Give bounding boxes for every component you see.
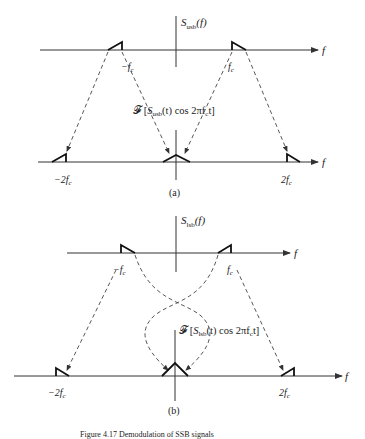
triangle-neg-2fc-b <box>56 368 69 376</box>
label-neg-fc-b: −fc <box>113 264 127 277</box>
axis-label-f-bottom: f <box>322 156 327 168</box>
label-pos-2fc-b: 2fc <box>279 387 291 400</box>
triangle-neg-2fc-a <box>52 154 66 162</box>
axis-label-f-bottom-b: f <box>345 370 350 382</box>
transform-label-lsb: 𝓕 [Slsb(t) cos 2πfct] <box>179 325 259 338</box>
lsb-triangle-pos-fc <box>218 245 231 253</box>
axis-label-f: f <box>322 44 327 56</box>
shift-arrow-neg-fc-to-neg-2fc-b <box>67 270 116 370</box>
shift-arrow-neg-fc-to-zero <box>122 52 169 153</box>
shift-arrow-pos-fc-to-zero <box>185 52 232 153</box>
spectrum-label-lsb: Slsb(f) <box>181 214 205 229</box>
label-pos-2fc-a: 2fc <box>281 174 293 187</box>
shift-arrow-pos-fc-to-pos-2fc <box>246 52 287 151</box>
shift-curve-pos-fc-to-zero <box>145 255 218 370</box>
axis-label-f-b: f <box>294 247 299 259</box>
label-neg-2fc-a: −2fc <box>54 174 73 187</box>
label-neg-fc: −fc <box>121 61 135 74</box>
spectrum-label-usb: Susb(f) <box>181 16 207 31</box>
usb-triangle-pos-fc <box>232 42 246 50</box>
label-pos-fc-b: fc <box>227 264 234 277</box>
figure-caption: Figure 4.17 Demodulation of SSB signals <box>80 430 214 439</box>
caption-a: (a) <box>169 187 180 199</box>
panel-b: Slsb(f) f −fc fc 𝓕 [Slsb(t) cos 2πfct] f… <box>14 214 350 417</box>
ssb-demodulation-diagram: Susb(f) f −fc fc 𝓕 [Susb(t) cos 2πfct] f… <box>0 0 365 439</box>
lsb-triangle-neg-fc <box>121 245 135 253</box>
shift-arrow-pos-fc-to-pos-2fc-b <box>237 270 283 370</box>
shift-curve-neg-fc-to-zero <box>135 255 210 370</box>
usb-triangle-neg-fc <box>108 42 122 50</box>
triangle-pos-2fc-a <box>287 154 300 162</box>
panel-a: Susb(f) f −fc fc 𝓕 [Susb(t) cos 2πfct] f… <box>38 16 327 199</box>
shift-arrow-neg-fc-to-neg-2fc <box>67 52 108 151</box>
label-pos-fc: fc <box>228 61 235 74</box>
triangle-pos-2fc-b <box>281 368 294 376</box>
label-neg-2fc-b: −2fc <box>48 387 67 400</box>
caption-b: (b) <box>168 405 180 417</box>
